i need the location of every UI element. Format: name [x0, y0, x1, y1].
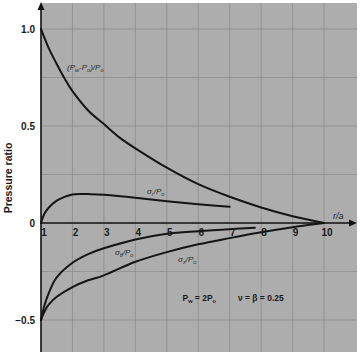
x-tick-label: 9	[293, 227, 299, 238]
x-tick-label: 4	[136, 227, 142, 238]
y-tick-label: 0	[29, 218, 35, 229]
x-tick-label: 8	[261, 227, 267, 238]
pressure-ratio-chart: 123456789101.00.50−0.5 r/a Pressure rati…	[0, 0, 362, 359]
x-tick-label: 3	[104, 227, 110, 238]
x-tick-label: 5	[167, 227, 173, 238]
label-part: o	[193, 259, 196, 265]
label-part: o	[100, 67, 103, 73]
y-tick-label: 1.0	[21, 24, 35, 35]
label-part: o	[161, 191, 164, 197]
x-tick-label: 6	[198, 227, 204, 238]
y-axis-title: Pressure ratio	[2, 143, 14, 214]
label-part: = 2P	[192, 293, 212, 303]
label-part: ν = β = 0.25	[238, 293, 284, 303]
x-tick-label: 10	[321, 227, 333, 238]
label-part: o	[130, 252, 133, 258]
y-tick-label: 0.5	[21, 121, 35, 132]
x-tick-label: 7	[230, 227, 236, 238]
label-part: )/P	[89, 63, 101, 72]
label-pressure-curve: (Pw-Po)/Po	[67, 63, 103, 73]
x-tick-label: 2	[73, 227, 79, 238]
y-tick-label: −0.5	[15, 315, 35, 326]
label-parameters: ν = β = 0.25	[238, 293, 284, 303]
x-tick-label: 1	[41, 227, 47, 238]
x-axis-title: r/a	[333, 211, 344, 221]
label-boundary-condition: Pw = 2Po	[183, 293, 217, 304]
